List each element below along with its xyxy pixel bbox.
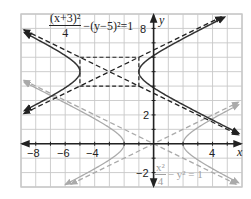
equation-numerator: x² — [155, 162, 166, 175]
equation-denominator: 4 — [62, 26, 68, 39]
tick-label-y-8: 8 — [140, 24, 146, 35]
tick-label-y-neg2: −2 — [136, 168, 149, 179]
equation-label-shifted-hyperbola: (x+3)² 4 −(y−5)²=1 — [49, 12, 133, 39]
equation-denominator: 4 — [158, 175, 164, 187]
equation-rest: − y² = 1 — [168, 169, 203, 180]
x-axis-label: x — [237, 146, 242, 158]
tick-label-y-2: 2 — [143, 110, 149, 121]
equation-label-base-hyperbola: x² 4 − y² = 1 — [155, 162, 203, 187]
tick-label-x-neg4: −4 — [86, 148, 99, 159]
grid-lines — [21, 14, 242, 187]
tick-label-x-neg6: −6 — [57, 148, 70, 159]
equation-fraction: x² 4 — [155, 162, 166, 187]
equation-rest: −(y−5)²=1 — [83, 20, 133, 32]
equation-numerator: (x+3)² — [49, 12, 81, 26]
y-axis-label: y — [159, 14, 164, 26]
tick-label-x-neg8: −8 — [27, 148, 40, 159]
equation-fraction: (x+3)² 4 — [49, 12, 81, 39]
tick-label-x-4: 4 — [209, 148, 215, 159]
